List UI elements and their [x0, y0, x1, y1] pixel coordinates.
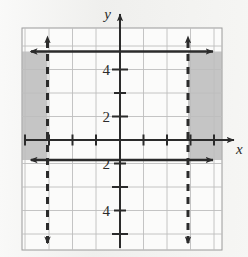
- y-tick-label-4-positive: 4: [103, 62, 111, 78]
- figure-canvas: 4 2 2 4 y x: [0, 0, 248, 257]
- coordinate-graph: 4 2 2 4 y x: [0, 0, 248, 257]
- x-axis-label: x: [235, 141, 243, 157]
- y-tick-label-4-negative: 4: [103, 203, 111, 219]
- right-shaded-band: [188, 52, 222, 161]
- y-axis-label: y: [102, 6, 111, 22]
- y-tick-label-2-negative: 2: [103, 156, 111, 172]
- y-tick-label-2-positive: 2: [103, 109, 111, 125]
